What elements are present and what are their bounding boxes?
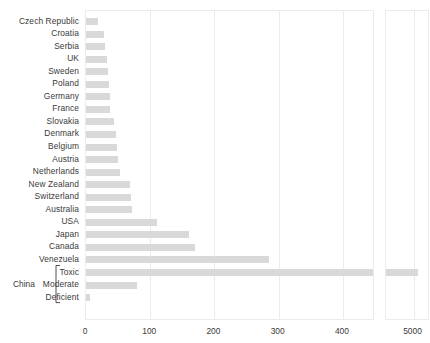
bar (86, 56, 107, 63)
bar (86, 43, 105, 50)
category-label: Sweden (48, 65, 79, 77)
bar (86, 269, 374, 276)
x-tick-label: 5000 (403, 326, 422, 336)
x-tick-label: 400 (335, 326, 349, 336)
bar (86, 231, 189, 238)
bar (86, 18, 98, 25)
category-label: Belgium (48, 140, 79, 152)
category-label: Poland (52, 77, 79, 89)
bar (86, 244, 195, 251)
x-tick-label: 200 (206, 326, 220, 336)
category-label: UK (67, 52, 79, 64)
category-label: New Zealand (29, 178, 79, 190)
x-axis-tick-labels: 01002003004005000 (0, 320, 430, 343)
bar (86, 106, 110, 113)
bar-chart: Czech RepublicCroatiaSerbiaUKSwedenPolan… (0, 0, 430, 343)
category-label: Croatia (51, 27, 79, 39)
bar (86, 169, 120, 176)
category-label: USA (61, 215, 79, 227)
category-label: Deficient (46, 291, 79, 303)
bar (86, 118, 114, 125)
bar-continuation (386, 269, 418, 276)
bar (86, 194, 131, 201)
category-label: Czech Republic (19, 15, 79, 27)
bar (86, 93, 110, 100)
bar (86, 256, 269, 263)
category-label: Japan (56, 228, 79, 240)
x-tick-label: 100 (142, 326, 156, 336)
bar (86, 206, 132, 213)
x-tick-label: 300 (271, 326, 285, 336)
category-label: Austria (52, 153, 79, 165)
category-label: Netherlands (33, 165, 79, 177)
bar (86, 181, 130, 188)
plot-panel-right (385, 10, 429, 320)
bar (86, 81, 109, 88)
bar (86, 131, 116, 138)
category-label-column: Czech RepublicCroatiaSerbiaUKSwedenPolan… (0, 0, 85, 343)
x-tick-label: 0 (83, 326, 88, 336)
category-label: Slovakia (47, 115, 79, 127)
category-label: Canada (49, 240, 79, 252)
bar (86, 31, 104, 38)
plot-panel-left (85, 10, 374, 320)
bar (86, 144, 117, 151)
bar (86, 156, 118, 163)
category-label: Switzerland (35, 190, 79, 202)
category-label: Moderate (43, 278, 79, 290)
category-label: Serbia (54, 40, 79, 52)
category-label: Australia (46, 203, 79, 215)
bar (86, 294, 90, 301)
category-label: Venezuela (39, 253, 79, 265)
bar (86, 282, 137, 289)
bar (86, 219, 157, 226)
bar (86, 68, 108, 75)
category-label: Germany (44, 90, 79, 102)
category-label: Denmark (44, 127, 79, 139)
category-label: France (52, 102, 79, 114)
category-label: Toxic (59, 266, 79, 278)
